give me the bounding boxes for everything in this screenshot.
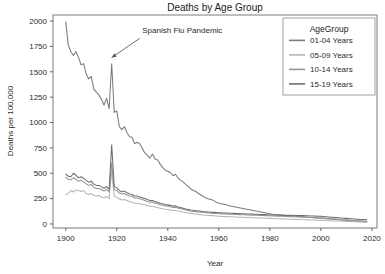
legend-title: AgeGroup — [310, 24, 349, 34]
x-axis-title: Year — [207, 259, 224, 268]
y-tick-label: 1750 — [29, 42, 47, 51]
legend[interactable]: AgeGroup 01-04 Years05-09 Years10-14 Yea… — [283, 18, 375, 95]
x-tick-label: 2000 — [312, 234, 330, 243]
legend-item-label: 01-04 Years — [310, 36, 353, 45]
y-tick-label: 2000 — [29, 17, 47, 26]
y-tick-label: 500 — [34, 169, 48, 178]
y-tick-label: 1500 — [29, 68, 47, 77]
y-tick-label: 750 — [34, 144, 48, 153]
annotation-label: Spanish Flu Pandemic — [142, 26, 222, 35]
chart-figure: Deaths by Age Group 02505007501000125015… — [0, 0, 385, 274]
legend-item-label: 15-19 Years — [310, 80, 353, 89]
x-tick-label: 1940 — [159, 234, 177, 243]
deaths-by-age-group-chart: Deaths by Age Group 02505007501000125015… — [0, 0, 385, 274]
y-tick-label: 1250 — [29, 93, 47, 102]
x-tick-label: 2020 — [363, 234, 381, 243]
x-tick-label: 1920 — [108, 234, 126, 243]
x-tick-label: 1960 — [210, 234, 228, 243]
y-tick-label: 1000 — [29, 118, 47, 127]
x-tick-label: 1900 — [57, 234, 75, 243]
page-title: Deaths by Age Group — [167, 2, 263, 13]
y-tick-label: 250 — [34, 194, 48, 203]
y-tick-label: 0 — [43, 220, 48, 229]
x-tick-label: 1980 — [261, 234, 279, 243]
legend-item-label: 10-14 Years — [310, 65, 353, 74]
y-axis-title: Deaths per 100,000 — [6, 85, 15, 156]
legend-item-label: 05-09 Years — [310, 51, 353, 60]
